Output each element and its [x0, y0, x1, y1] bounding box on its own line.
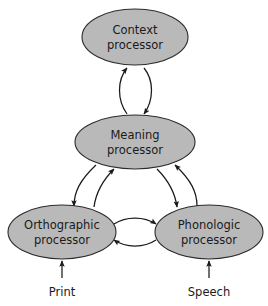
diagram-canvas: Context processor Meaning processor Orth… [0, 0, 268, 306]
connector-meaning-phonologic [157, 165, 197, 207]
context-processor-label-line1: Context [112, 23, 158, 37]
meaning-processor-label-line1: Meaning [110, 128, 159, 142]
input-print: Print [49, 261, 76, 299]
arrow-meaning-to-phonologic [157, 169, 177, 207]
phonologic-processor-label-line1: Phonologic [178, 218, 241, 232]
arrow-orthographic-to-phonologic [114, 218, 156, 224]
arrow-meaning-to-orthographic [74, 165, 96, 206]
node-meaning-processor[interactable]: Meaning processor [75, 115, 195, 169]
orthographic-processor-label-line2: processor [34, 233, 90, 247]
arrow-context-to-meaning [144, 68, 152, 114]
processor-model-diagram: Context processor Meaning processor Orth… [0, 0, 268, 306]
orthographic-processor-label-line1: Orthographic [24, 218, 100, 232]
phonologic-processor-label-line2: processor [181, 233, 237, 247]
connector-context-meaning [120, 68, 152, 114]
meaning-processor-label-line2: processor [107, 143, 163, 157]
arrow-phonologic-to-meaning [175, 165, 197, 206]
connector-meaning-orthographic [74, 165, 114, 207]
arrow-phonologic-to-orthographic [114, 240, 156, 246]
print-input-label: Print [49, 285, 76, 299]
arrow-meaning-to-context [120, 68, 128, 114]
node-orthographic-processor[interactable]: Orthographic processor [8, 205, 116, 259]
node-context-processor[interactable]: Context processor [82, 9, 188, 65]
connector-orthographic-phonologic [114, 218, 156, 246]
speech-input-label: Speech [188, 285, 230, 299]
arrow-orthographic-to-meaning [94, 169, 114, 207]
context-processor-label-line2: processor [107, 38, 163, 52]
input-speech: Speech [188, 261, 230, 299]
node-phonologic-processor[interactable]: Phonologic processor [155, 205, 263, 259]
